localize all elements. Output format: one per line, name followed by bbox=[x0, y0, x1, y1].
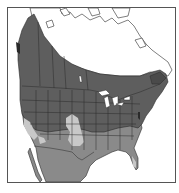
north-america-map bbox=[0, 0, 179, 193]
range-map: North America bbox=[0, 0, 179, 193]
